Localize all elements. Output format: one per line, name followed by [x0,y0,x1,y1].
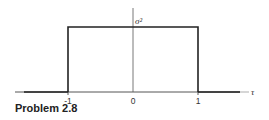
figure-caption: Problem 2.8 [15,102,77,114]
tick-label-1: 1 [196,96,201,106]
tick-label-0: 0 [131,96,136,106]
x-label: τ [251,87,255,97]
y-label: σ² [135,16,142,26]
